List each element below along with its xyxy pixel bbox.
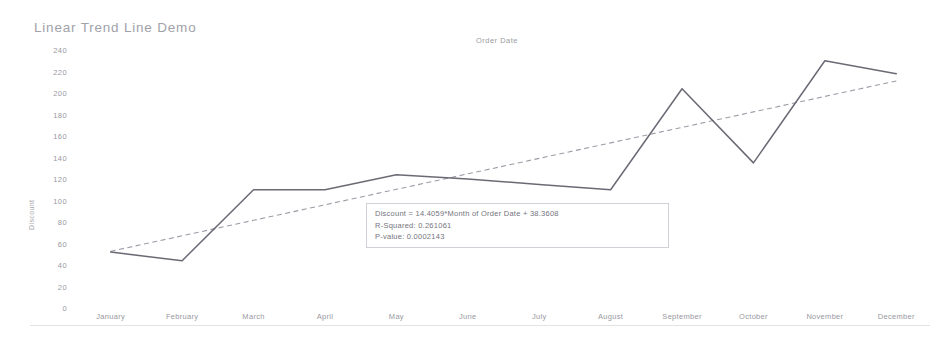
x-axis-tick-march: March (242, 312, 264, 321)
y-axis-tick: 140 (53, 153, 67, 162)
trend-line-visualization: Linear Trend Line Demo Order Date Discou… (0, 0, 944, 348)
x-axis-tick-january: January (96, 312, 125, 321)
x-axis-tick-june: June (459, 312, 476, 321)
x-axis-tick-september: September (662, 312, 701, 321)
x-axis: JanuaryFebruaryMarchAprilMayJuneJulyAugu… (75, 308, 932, 334)
y-axis-tick: 100 (53, 196, 67, 205)
y-axis: Discount 2402202001801601401201008060402… (0, 50, 75, 308)
x-axis-tick-february: February (166, 312, 198, 321)
trend-line-stats-card[interactable]: Discount = 14.4059*Month of Order Date +… (366, 203, 669, 248)
x-axis-tick-december: December (878, 312, 915, 321)
y-axis-tick: 160 (53, 132, 67, 141)
y-axis-tick: 0 (62, 304, 67, 313)
y-axis-tick: 180 (53, 110, 67, 119)
y-axis-title: Discount (28, 200, 35, 230)
y-axis-tick: 20 (58, 282, 67, 291)
page-title: Linear Trend Line Demo (34, 20, 196, 35)
y-axis-tick: 120 (53, 175, 67, 184)
y-axis-tick: 80 (58, 218, 67, 227)
y-axis-tick: 200 (53, 89, 67, 98)
y-axis-tick: 240 (53, 46, 67, 55)
p-value-text: P-value: 0.0002143 (375, 231, 661, 243)
x-axis-tick-november: November (806, 312, 843, 321)
trend-equation-text: Discount = 14.4059*Month of Order Date +… (375, 208, 661, 220)
plot-area (75, 50, 932, 308)
x-axis-tick-july: July (532, 312, 547, 321)
axis-divider-rule (30, 325, 930, 326)
x-axis-tick-august: August (598, 312, 623, 321)
r-squared-text: R-Squared: 0.261061 (375, 220, 661, 232)
x-axis-tick-april: April (317, 312, 334, 321)
y-axis-tick: 60 (58, 239, 67, 248)
column-header-order-date: Order Date (432, 36, 562, 45)
x-axis-tick-may: May (389, 312, 404, 321)
y-axis-tick: 40 (58, 261, 67, 270)
x-axis-tick-october: October (739, 312, 768, 321)
y-axis-tick: 220 (53, 67, 67, 76)
chart-canvas (75, 50, 932, 308)
